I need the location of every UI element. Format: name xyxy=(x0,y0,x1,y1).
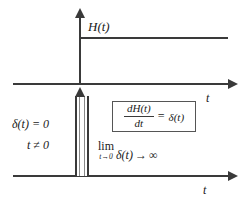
derivative-equation: dH(t) dt = δ(t) xyxy=(124,103,184,130)
delta-impulse-arrowhead xyxy=(75,87,85,97)
equation-right-side: δ(t) xyxy=(169,111,185,123)
step-and-impulse-figure: H(t) t t δ(t) = 0 t ≠ 0 lim t→0 δ(t) → ∞… xyxy=(0,0,246,202)
derivative-equation-box: dH(t) dt = δ(t) xyxy=(112,101,196,132)
limit-arrow-icon: → xyxy=(135,149,147,161)
lower-plot-horizontal-axis-arrowhead xyxy=(228,171,238,181)
delta-impulse-spike xyxy=(75,96,89,176)
limit-subscript: t→0 xyxy=(99,153,112,161)
delta-zero-annotation: δ(t) = 0 xyxy=(12,118,49,130)
upper-plot-vertical-axis xyxy=(79,17,81,84)
upper-plot-vertical-axis-arrowhead xyxy=(75,8,85,18)
upper-plot-x-axis-label: t xyxy=(206,92,209,104)
limit-operator: lim t→0 xyxy=(98,140,114,161)
upper-plot-horizontal-axis-arrowhead xyxy=(228,79,238,89)
limit-infinity: ∞ xyxy=(149,149,158,161)
step-function-label: H(t) xyxy=(88,20,110,33)
limit-expression: δ(t) xyxy=(116,149,133,161)
limit-lim-word: lim xyxy=(98,140,114,152)
limit-annotation: lim t→0 δ(t) → ∞ xyxy=(98,140,157,161)
step-function-plateau xyxy=(79,37,228,39)
lower-plot-horizontal-axis xyxy=(13,175,231,177)
fraction-numerator: dH(t) xyxy=(124,103,154,115)
derivative-fraction: dH(t) dt xyxy=(124,103,154,130)
upper-plot-horizontal-axis xyxy=(13,83,231,85)
equals-sign: = xyxy=(158,109,165,124)
t-not-zero-annotation: t ≠ 0 xyxy=(27,139,49,151)
fraction-denominator: dt xyxy=(132,118,147,130)
lower-plot-x-axis-label: t xyxy=(203,184,206,196)
